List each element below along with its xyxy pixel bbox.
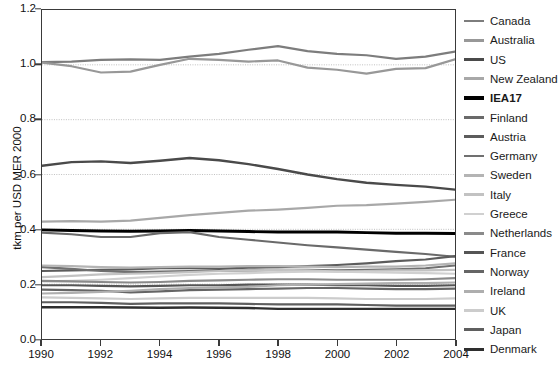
x-tick-mark	[218, 340, 219, 346]
legend-label: France	[490, 247, 526, 259]
legend-label: Japan	[490, 324, 521, 336]
legend-item-netherlands[interactable]: Netherlands	[464, 226, 552, 240]
legend-item-norway[interactable]: Norway	[464, 265, 529, 279]
legend-label: Netherlands	[490, 227, 552, 239]
y-tick-label: 0.0	[20, 334, 36, 346]
legend-swatch-icon	[464, 58, 484, 61]
legend-label: Ireland	[490, 285, 525, 297]
x-tick-label: 2002	[384, 348, 410, 360]
legend-item-sweden[interactable]: Sweden	[464, 168, 532, 182]
legend-label: IEA17	[490, 92, 522, 104]
y-tick-label: 0.2	[20, 279, 36, 291]
legend-label: Australia	[490, 34, 535, 46]
legend-label: Austria	[490, 131, 526, 143]
legend-item-finland[interactable]: Finland	[464, 111, 528, 125]
legend-swatch-icon	[464, 20, 484, 23]
legend-item-us[interactable]: US	[464, 53, 506, 67]
y-tick-label: 1.0	[20, 58, 36, 70]
x-tick-label: 1994	[147, 348, 173, 360]
x-tick-label: 1990	[28, 348, 54, 360]
y-tick-label: 1.2	[20, 3, 36, 15]
legend-label: Denmark	[490, 343, 537, 355]
x-tick-mark	[455, 340, 456, 346]
legend-item-iea17[interactable]: IEA17	[464, 91, 522, 105]
legend-label: US	[490, 54, 506, 66]
legend-label: Sweden	[490, 169, 532, 181]
legend-label: Canada	[490, 15, 530, 27]
legend-swatch-icon	[464, 135, 484, 138]
series-line	[42, 302, 455, 305]
legend-label: New Zealand	[490, 73, 558, 85]
legend-swatch-icon	[464, 290, 484, 293]
legend-swatch-icon	[464, 309, 484, 312]
legend-item-denmark[interactable]: Denmark	[464, 342, 537, 356]
x-tick-label: 1998	[265, 348, 291, 360]
legend-swatch-icon	[464, 116, 484, 119]
legend-item-greece[interactable]: Greece	[464, 207, 528, 221]
legend-label: Italy	[490, 189, 511, 201]
series-line	[42, 232, 455, 257]
legend-item-germany[interactable]: Germany	[464, 149, 537, 163]
legend-item-ireland[interactable]: Ireland	[464, 284, 525, 298]
legend-swatch-icon	[464, 96, 484, 100]
legend-swatch-icon	[464, 155, 484, 158]
legend-swatch-icon	[464, 348, 484, 351]
legend-label: Germany	[490, 150, 537, 162]
x-tick-label: 1992	[87, 348, 113, 360]
x-tick-label: 2000	[325, 348, 351, 360]
x-tick-mark	[337, 340, 338, 346]
legend-item-canada[interactable]: Canada	[464, 14, 530, 28]
y-axis-title: tkm per USD MER 2000	[11, 113, 23, 263]
legend-label: UK	[490, 305, 506, 317]
series-canvas	[42, 10, 455, 339]
series-line	[42, 263, 455, 267]
chart-legend: CanadaAustraliaUSNew ZealandIEA17Finland…	[464, 9, 554, 357]
legend-item-new-zealand[interactable]: New Zealand	[464, 72, 558, 86]
series-line	[42, 158, 455, 190]
legend-swatch-icon	[464, 328, 484, 331]
x-tick-mark	[277, 340, 278, 346]
legend-swatch-icon	[464, 213, 484, 216]
series-line	[42, 46, 455, 62]
x-tick-label: 1996	[206, 348, 232, 360]
legend-item-austria[interactable]: Austria	[464, 130, 526, 144]
series-line	[42, 307, 455, 309]
series-line	[42, 200, 455, 222]
legend-item-uk[interactable]: UK	[464, 304, 506, 318]
legend-swatch-icon	[464, 251, 484, 254]
legend-swatch-icon	[464, 232, 484, 235]
legend-swatch-icon	[464, 270, 484, 273]
legend-item-australia[interactable]: Australia	[464, 33, 535, 47]
series-line	[42, 230, 455, 234]
x-tick-mark	[159, 340, 160, 346]
legend-item-italy[interactable]: Italy	[464, 188, 511, 202]
legend-swatch-icon	[464, 174, 484, 177]
legend-swatch-icon	[464, 77, 484, 80]
legend-item-japan[interactable]: Japan	[464, 323, 521, 337]
series-line	[42, 59, 455, 74]
legend-label: Norway	[490, 266, 529, 278]
legend-item-france[interactable]: France	[464, 246, 526, 260]
x-tick-mark	[396, 340, 397, 346]
legend-label: Finland	[490, 112, 528, 124]
x-tick-mark	[40, 340, 41, 346]
legend-swatch-icon	[464, 39, 484, 42]
legend-swatch-icon	[464, 193, 484, 196]
legend-label: Greece	[490, 208, 528, 220]
plot-area	[41, 9, 456, 340]
series-line	[42, 297, 455, 299]
x-tick-mark	[100, 340, 101, 346]
